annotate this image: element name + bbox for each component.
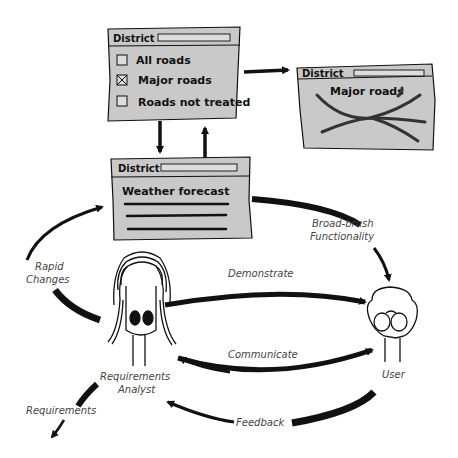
user-icon bbox=[367, 287, 417, 362]
broad-brush-label-2: Functionality bbox=[310, 231, 375, 242]
filter-window: District All roads Major roads Roads not… bbox=[108, 27, 250, 121]
arrow-feedback-end bbox=[168, 402, 234, 422]
forecast-window: District Weather forecast bbox=[111, 157, 252, 240]
forecast-window-title: District bbox=[118, 163, 160, 174]
filter-window-title: District bbox=[113, 33, 155, 44]
map-window-title: District bbox=[302, 68, 344, 79]
forecast-heading: Weather forecast bbox=[122, 185, 229, 198]
option-label: Roads not treated bbox=[138, 96, 250, 109]
arrow-rapid-changes-bottom bbox=[55, 290, 100, 320]
arrow-rapid-changes-top bbox=[27, 207, 102, 260]
map-window: District Major roads bbox=[297, 64, 435, 150]
title-field-box bbox=[161, 164, 237, 171]
analyst-label: Requirements bbox=[100, 371, 170, 382]
demonstrate-label: Demonstrate bbox=[228, 268, 294, 279]
rapid-label: Rapid bbox=[35, 261, 64, 272]
user-label: User bbox=[382, 369, 406, 380]
title-field-box bbox=[158, 34, 230, 41]
diagram-canvas: District All roads Major roads Roads not… bbox=[0, 0, 458, 458]
title-field-box bbox=[354, 70, 424, 76]
arrow-filter-to-map bbox=[244, 70, 288, 72]
arrow-feedback-start bbox=[292, 392, 374, 423]
map-heading: Major roads bbox=[330, 85, 404, 98]
communicate-label: Communicate bbox=[228, 349, 298, 360]
arrow-requirements-start bbox=[78, 384, 97, 406]
checkbox-empty-icon[interactable] bbox=[117, 96, 127, 106]
option-label: All roads bbox=[136, 54, 191, 67]
broad-brush-label: Broad-brush bbox=[312, 218, 374, 229]
requirements-label: Requirements bbox=[26, 405, 96, 416]
feedback-label: Feedback bbox=[236, 417, 285, 428]
arrow-demonstrate bbox=[165, 294, 365, 305]
checkbox-empty-icon[interactable] bbox=[117, 55, 127, 65]
analyst-label-2: Analyst bbox=[117, 384, 156, 395]
rapid-label-2: Changes bbox=[26, 274, 70, 285]
analyst-icon bbox=[108, 252, 176, 366]
option-label: Major roads bbox=[138, 74, 212, 87]
arrow-broad-brush-end bbox=[374, 248, 389, 280]
arrow-requirements-end bbox=[52, 420, 64, 437]
